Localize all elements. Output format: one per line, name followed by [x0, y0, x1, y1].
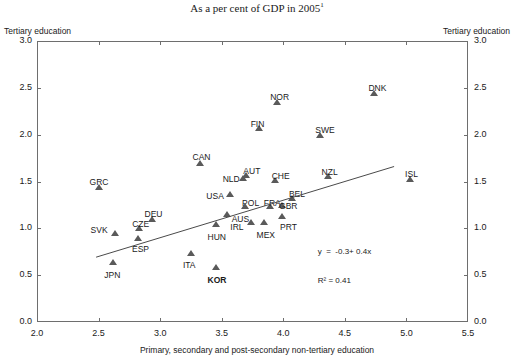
regression-r2: R² = 0.41: [318, 276, 371, 286]
regression-annotation: y = -0.3+ 0.4x R² = 0.41: [318, 228, 371, 304]
scatter-chart: As a per cent of GDP in 20051 Tertiary e…: [0, 0, 514, 364]
x-axis-label: Primary, secondary and post-secondary no…: [0, 345, 514, 355]
regression-equation: y = -0.3+ 0.4x: [318, 247, 371, 257]
regression-line: [0, 0, 514, 364]
